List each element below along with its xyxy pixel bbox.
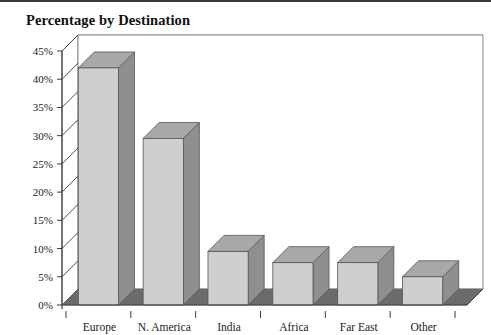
bar-front-face [338, 263, 378, 305]
page-top-rule [0, 0, 491, 2]
x-tick-label: Africa [279, 321, 308, 333]
y-tick-label: 40% [33, 73, 53, 85]
plot-frame-group [78, 35, 483, 289]
y-tick-label: 45% [33, 45, 53, 57]
bar-n-america [143, 122, 199, 305]
x-tick-label: Other [410, 321, 436, 333]
bar-front-face [143, 138, 183, 305]
y-tick-label: 5% [38, 271, 53, 283]
bar-front-face [78, 68, 118, 305]
bar-chart: 0%5%10%15%20%25%30%35%40%45% EuropeN. Am… [0, 34, 491, 335]
depth-wall [62, 35, 78, 305]
chart-title: Percentage by Destination [26, 12, 190, 29]
chart-canvas: 0%5%10%15%20%25%30%35%40%45% EuropeN. Am… [0, 34, 491, 335]
x-tick-label: N. America [138, 321, 191, 333]
x-tick-label: India [217, 321, 241, 333]
bar-side-face [119, 52, 135, 305]
bar-front-face [273, 263, 313, 305]
y-tick-label: 10% [33, 243, 53, 255]
y-tick-label: 25% [33, 158, 53, 170]
bar-africa [273, 247, 329, 305]
y-tick-label: 0% [38, 299, 53, 311]
bar-side-face [183, 122, 199, 305]
y-tick-label: 15% [33, 214, 53, 226]
bar-far-east [338, 247, 394, 305]
x-tick-label: Europe [83, 321, 116, 334]
y-tick-label: 30% [33, 130, 53, 142]
bar-front-face [208, 251, 248, 305]
bar-india [208, 235, 264, 305]
y-tick-label: 20% [33, 186, 53, 198]
bar-front-face [402, 277, 442, 305]
bar-europe [78, 52, 134, 305]
x-tick-label: Far East [340, 321, 379, 333]
y-tick-label: 35% [33, 101, 53, 113]
